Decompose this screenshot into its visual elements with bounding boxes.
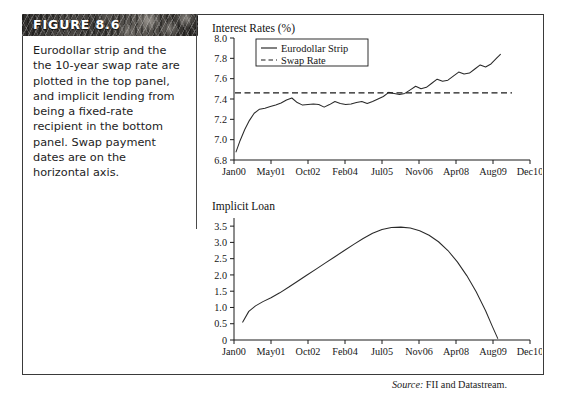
panel-implicit-loan: Implicit Loan 00.51.01.52.02.53.03.5Jan0…	[198, 200, 542, 365]
source-note: Source: FII and Datastream.	[392, 379, 507, 390]
figure-number-banner: FIGURE 8.6	[22, 14, 198, 36]
ytick-label: 2.5	[214, 253, 227, 264]
ytick-label: 0	[222, 335, 227, 346]
xtick-label: May01	[257, 346, 286, 357]
ytick-label: 6.8	[214, 155, 227, 166]
xtick-label: Aug09	[479, 346, 507, 357]
xtick-label: Apr08	[443, 346, 469, 357]
xtick-label: Nov06	[405, 166, 433, 177]
ytick-label: 3.5	[214, 221, 227, 232]
ytick-label: 7.2	[214, 114, 227, 125]
figure-caption: Eurodollar strip and the the 10-year swa…	[33, 43, 183, 181]
ytick-label: 1.0	[214, 302, 227, 313]
xtick-label: Oct02	[296, 166, 321, 177]
ytick-label: 0.5	[214, 318, 227, 329]
caption-plot-divider	[196, 14, 197, 229]
xtick-label: Feb04	[332, 346, 357, 357]
ytick-label: 8.0	[214, 33, 227, 44]
series-line-eurodollar-strip	[236, 54, 500, 152]
source-prefix: Source:	[392, 379, 423, 390]
legend-label: Swap Rate	[281, 55, 326, 66]
chart-interest-rates: 6.87.07.27.47.67.88.0Jan00May01Oct02Feb0…	[198, 32, 542, 187]
figure-root: FIGURE 8.6 Eurodollar strip and the the …	[0, 0, 566, 397]
xtick-label: Dec10	[517, 166, 542, 177]
xtick-label: Apr08	[443, 166, 469, 177]
xtick-label: Feb04	[332, 166, 357, 177]
figure-number-label: FIGURE 8.6	[33, 17, 120, 32]
chart-implicit-loan: 00.51.01.52.02.53.03.5Jan00May01Oct02Feb…	[198, 210, 542, 365]
xtick-label: Dec10	[517, 346, 542, 357]
ytick-label: 7.6	[214, 73, 227, 84]
ytick-label: 7.4	[214, 94, 227, 105]
ytick-label: 7.0	[214, 134, 227, 145]
legend-label: Eurodollar Strip	[281, 43, 348, 54]
source-text: FII and Datastream.	[426, 379, 507, 390]
xtick-label: Nov06	[405, 346, 433, 357]
ytick-label: 1.5	[214, 286, 227, 297]
xtick-label: Aug09	[479, 166, 507, 177]
xtick-label: May01	[257, 166, 286, 177]
xtick-label: Jul05	[371, 166, 393, 177]
ytick-label: 3.0	[214, 237, 227, 248]
panel-interest-rates: Interest Rates (%) 6.87.07.27.47.67.88.0…	[198, 22, 542, 187]
xtick-label: Jan00	[222, 166, 246, 177]
series-line-implicit-loan	[243, 227, 498, 338]
ytick-label: 7.8	[214, 53, 227, 64]
xtick-label: Jul05	[371, 346, 393, 357]
xtick-label: Jan00	[222, 346, 246, 357]
xtick-label: Oct02	[296, 346, 321, 357]
ytick-label: 2.0	[214, 270, 227, 281]
